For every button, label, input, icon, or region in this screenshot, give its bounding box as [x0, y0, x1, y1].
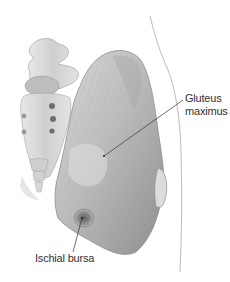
leader-dot-ischial: [81, 217, 83, 219]
label-gluteus-line1: Gluteus: [185, 92, 228, 105]
label-ischial-bursa: Ischial bursa: [35, 252, 94, 265]
ischial-bursa: [74, 209, 94, 227]
label-gluteus-line2: maximus: [185, 105, 228, 118]
leader-dot-gluteus: [103, 155, 105, 157]
anatomy-illustration: [0, 0, 230, 282]
label-gluteus-maximus: Gluteus maximus: [185, 92, 228, 118]
